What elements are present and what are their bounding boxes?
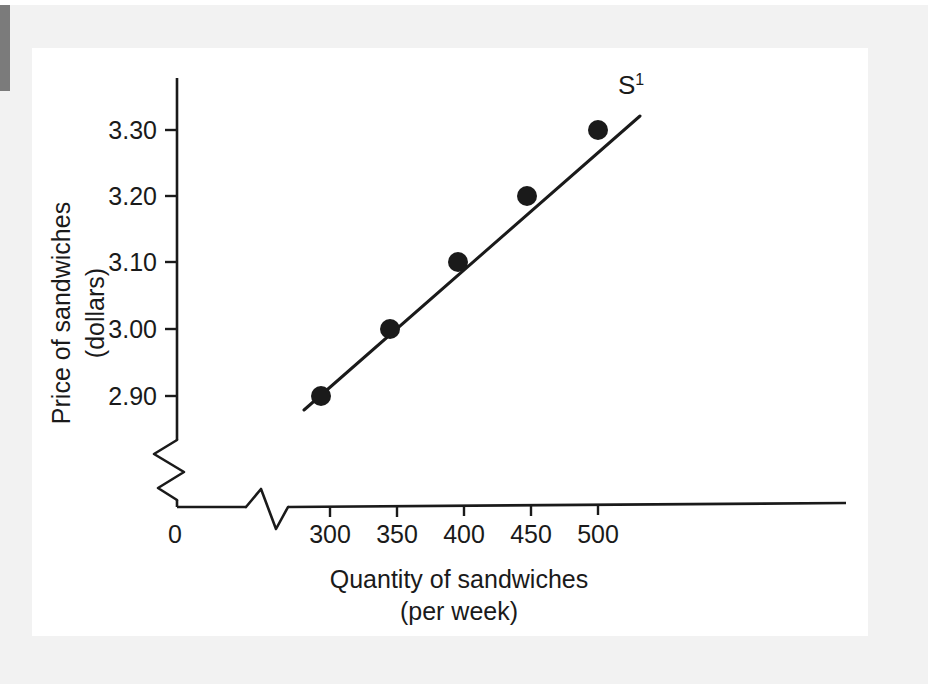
supply-curve-chart: 3.30 3.20 3.10 3.00 2.90 0 300 350 400 4… [32,48,868,636]
left-margin-tab [0,5,10,91]
y-axis-title-line2: (dollars) [81,268,109,358]
x-tick-label-400: 400 [443,520,485,548]
y-tick-label-3-10: 3.10 [108,248,157,276]
series-label-s1-superscript: 1 [635,71,644,88]
x-tick-label-450: 450 [510,520,552,548]
y-tick-label-2-90: 2.90 [108,382,157,410]
data-point-500-3-30 [588,120,608,140]
figure-page: 3.30 3.20 3.10 3.00 2.90 0 300 350 400 4… [0,0,928,684]
supply-curve-line [304,116,640,410]
series-label-s1-base: S [618,70,635,100]
y-axis-ticks [165,130,177,396]
x-tick-label-300: 300 [309,520,351,548]
x-tick-label-350: 350 [376,520,418,548]
chart-panel: 3.30 3.20 3.10 3.00 2.90 0 300 350 400 4… [32,48,868,636]
x-axis-break-mark [246,489,288,529]
y-tick-label-3-30: 3.30 [108,116,157,144]
page-top-strip [0,0,928,5]
series-label-s1: S1 [618,70,644,100]
data-point-400-3-10 [448,252,468,272]
x-axis-title-line2: (per week) [400,597,518,625]
y-tick-label-3-20: 3.20 [108,182,157,210]
y-axis-title: Price of sandwiches [47,202,75,424]
x-axis-title: Quantity of sandwiches [330,565,588,593]
y-axis-break-mark [154,440,184,500]
data-point-350-3-00 [380,319,400,339]
x-axis-line-right [288,503,846,507]
origin-label: 0 [168,520,182,548]
y-tick-label-3-00: 3.00 [108,315,157,343]
data-point-450-3-20 [517,186,537,206]
x-tick-label-500: 500 [577,520,619,548]
data-point-300-2-90 [311,386,331,406]
